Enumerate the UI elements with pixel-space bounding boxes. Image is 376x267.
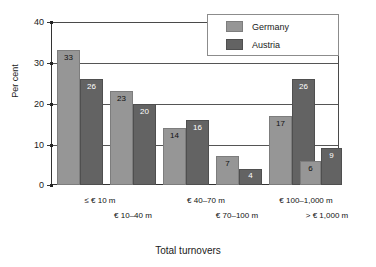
y-tick-line-20 xyxy=(47,104,51,105)
bar-germany-0 xyxy=(57,50,80,185)
y-tick-line-0 xyxy=(47,185,51,186)
y-axis-title: Per cent xyxy=(8,22,22,140)
x-tick-label-4: € 100–1,000 m xyxy=(246,196,366,205)
x-axis-title: Total turnovers xyxy=(0,245,376,257)
bar-value-austria-1: 20 xyxy=(133,108,156,116)
bar-value-austria-3: 4 xyxy=(239,172,262,180)
legend-swatch-germany-icon xyxy=(226,21,243,32)
y-tick-label-30: 30 xyxy=(20,59,44,68)
bar-chart: Per cent 40 30 20 10 0 33 26 23 20 14 16… xyxy=(0,0,376,267)
x-tick-label-0: ≤ € 10 m xyxy=(40,196,160,205)
legend-label-austria: Austria xyxy=(252,40,280,50)
bar-value-germany-0: 33 xyxy=(57,54,80,62)
bar-value-germany-5: 6 xyxy=(300,165,321,173)
legend: Germany Austria xyxy=(207,14,339,56)
legend-swatch-austria-icon xyxy=(226,39,243,50)
y-tick-line-10 xyxy=(47,145,51,146)
bar-austria-1 xyxy=(133,104,156,185)
x-tick-label-1: € 10–40 m xyxy=(73,211,193,220)
bar-value-germany-1: 23 xyxy=(110,95,133,103)
y-tick-label-10: 10 xyxy=(20,141,44,150)
y-tick-line-30 xyxy=(47,63,51,64)
bar-germany-1 xyxy=(110,91,133,185)
bar-value-austria-2: 16 xyxy=(186,124,209,132)
y-tick-label-20: 20 xyxy=(20,100,44,109)
x-tick-label-5: > € 1,000 m xyxy=(272,211,376,220)
bar-value-austria-0: 26 xyxy=(80,83,103,91)
bar-value-germany-4: 17 xyxy=(269,120,292,128)
bar-value-austria-4: 26 xyxy=(292,83,315,91)
y-tick-label-40: 40 xyxy=(20,18,44,27)
y-tick-line-40 xyxy=(47,22,51,23)
bar-value-austria-5: 9 xyxy=(321,152,342,160)
y-tick-label-0: 0 xyxy=(20,181,44,190)
bar-value-germany-3: 7 xyxy=(216,160,239,168)
bar-value-germany-2: 14 xyxy=(163,132,186,140)
bar-austria-0 xyxy=(80,79,103,185)
legend-label-germany: Germany xyxy=(252,22,289,32)
